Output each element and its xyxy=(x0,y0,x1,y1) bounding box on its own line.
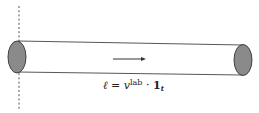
arrow-head-icon xyxy=(141,57,146,61)
length-formula-label: ℓ = vlab · 1t xyxy=(103,78,164,93)
cylinder-diagram xyxy=(0,0,259,113)
right-end-cap xyxy=(234,45,252,76)
cylinder-bottom-edge xyxy=(18,72,243,75)
cylinder-top-edge xyxy=(18,41,243,45)
time-unit-subscript: t xyxy=(161,84,164,93)
dot-operator: · xyxy=(142,79,153,92)
equals-sign: = xyxy=(108,79,124,92)
velocity-superscript: lab xyxy=(130,78,142,87)
left-end-cap xyxy=(8,41,26,73)
time-unit-symbol: 1 xyxy=(153,79,161,92)
